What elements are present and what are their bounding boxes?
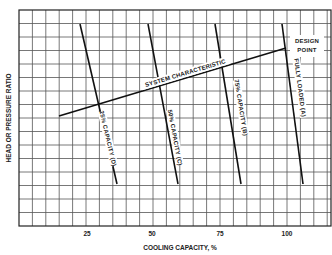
x-tick-25: 25 — [83, 230, 91, 237]
y-axis-title: HEAD OR PRESSURE RATIO — [5, 73, 12, 162]
design-point-label-line1: DESIGN — [295, 38, 319, 44]
design-point-label-line2: POINT — [297, 47, 316, 53]
x-tick-50: 50 — [148, 230, 156, 237]
x-axis-title: COOLING CAPACITY, % — [143, 244, 217, 252]
x-tick-75: 75 — [216, 230, 224, 237]
chart: SYSTEM CHARACTERISTIC DESIGN POINT 25% C… — [0, 0, 332, 255]
x-tick-100: 100 — [282, 230, 293, 237]
